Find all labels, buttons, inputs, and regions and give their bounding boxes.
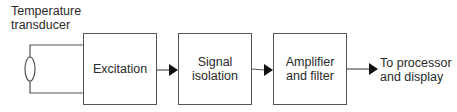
excitation-block: Excitation: [83, 33, 157, 105]
excitation-label: Excitation: [93, 62, 147, 76]
amplifier-filter-label: Amplifier and filter: [286, 55, 335, 83]
signal-isolation-block: Signal isolation: [178, 33, 252, 105]
arrow-head-icon: [169, 64, 178, 76]
transducer-ellipse-icon: [25, 57, 35, 81]
sensor-label: Temperature transducer: [11, 4, 81, 32]
output-label: To processor and display: [380, 56, 452, 84]
arrow-head-icon: [264, 64, 273, 76]
arrow-head-icon: [369, 63, 378, 75]
amplifier-filter-block: Amplifier and filter: [273, 33, 347, 105]
signal-isolation-label: Signal isolation: [192, 55, 238, 83]
